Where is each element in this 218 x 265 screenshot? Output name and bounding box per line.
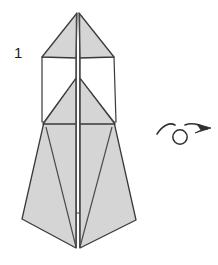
origami-diagram: 1 <box>0 0 218 265</box>
turn-over-loop-icon <box>173 130 187 144</box>
turn-over-arc-left <box>157 124 175 134</box>
lower-body-group <box>22 122 136 248</box>
upper-wing-group <box>42 13 114 58</box>
origami-figure <box>0 0 218 265</box>
step-number-label: 1 <box>14 45 22 60</box>
center-spine <box>76 14 79 248</box>
upper-right-wing <box>79 13 114 58</box>
upper-left-wing <box>42 13 77 58</box>
turn-over-arrow-icon <box>157 124 211 145</box>
